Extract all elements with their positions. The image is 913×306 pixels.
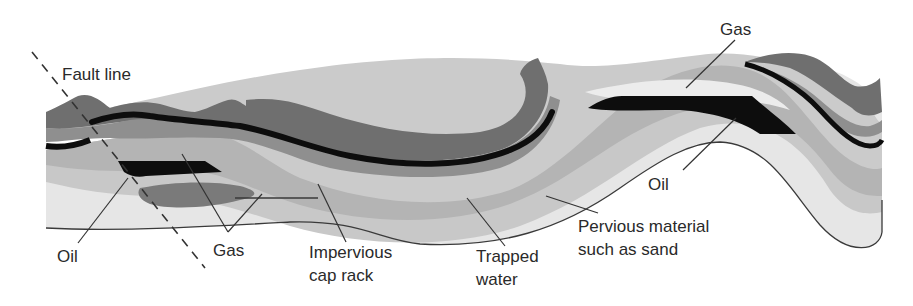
label-fault-line: Fault line: [62, 65, 131, 84]
label-oil-left: Oil: [57, 247, 78, 266]
label-cap-rock-1: Impervious: [309, 243, 392, 262]
label-trapped-water-1: Trapped: [476, 247, 539, 266]
label-cap-rock-2: cap rack: [309, 266, 374, 285]
label-pervious-1: Pervious material: [578, 217, 709, 236]
label-gas-left: Gas: [213, 241, 244, 260]
geological-cross-section: Fault line Gas Oil Oil Gas Impervious ca…: [0, 0, 913, 306]
label-pervious-2: such as sand: [578, 240, 678, 259]
label-gas-right: Gas: [720, 20, 751, 39]
label-oil-right: Oil: [648, 175, 669, 194]
label-trapped-water-2: water: [475, 270, 518, 289]
